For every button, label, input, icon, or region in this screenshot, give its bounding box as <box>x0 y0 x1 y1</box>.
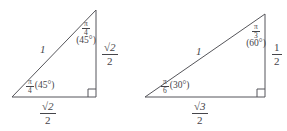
apex-angle-label-left-triangle: π 4 <box>71 19 101 36</box>
base-angle-label-right-triangle: π 6 (30°) <box>161 78 189 94</box>
base-angle-radian-fraction-left: π 4 <box>26 78 34 94</box>
base-side-label-right-triangle: √3 2 <box>192 101 208 126</box>
apex-angle-degrees-left-triangle: (45°) <box>66 36 106 46</box>
base-side-denominator-right: 2 <box>192 114 208 126</box>
base-angle-degrees-left-triangle: (45°) <box>35 81 55 91</box>
apex-angle-label-right-triangle: π 3 <box>241 22 271 39</box>
base-side-fraction-left: √2 2 <box>40 101 56 126</box>
right-angle-marker-right-triangle <box>257 89 265 97</box>
base-side-fraction-right: √3 2 <box>192 101 208 126</box>
base-side-label-left-triangle: √2 2 <box>40 101 56 126</box>
apex-angle-radian-fraction-right: π 3 <box>252 23 260 39</box>
vertical-side-denominator-right: 2 <box>272 55 282 67</box>
base-angle-radian-fraction-right: π 6 <box>161 78 169 94</box>
base-side-numerator-right: √3 <box>192 101 208 114</box>
apex-angle-degrees-right-triangle: (60°) <box>236 39 276 49</box>
base-angle-denominator-left: 4 <box>26 87 34 95</box>
right-angle-marker-left-triangle <box>88 89 96 97</box>
trigonometry-special-triangles-figure: 1 π 4 (45°) π 4 (45°) √2 2 √2 2 1 π 3 (6… <box>0 0 287 131</box>
base-side-numerator-left: √2 <box>40 101 56 114</box>
hypotenuse-label-right-triangle: 1 <box>196 46 202 57</box>
base-side-denominator-left: 2 <box>40 114 56 126</box>
vertical-side-fraction-right: 1 2 <box>272 42 282 67</box>
vertical-side-label-right-triangle: 1 2 <box>272 42 282 67</box>
apex-angle-radian-fraction-left: π 4 <box>82 20 90 36</box>
vertical-side-label-left-triangle: √2 2 <box>102 42 118 67</box>
vertical-side-denominator-left: 2 <box>102 55 118 67</box>
base-angle-degrees-right-triangle: (30°) <box>170 81 190 91</box>
vertical-side-numerator-right: 1 <box>272 42 282 55</box>
base-angle-label-left-triangle: π 4 (45°) <box>26 78 54 94</box>
hypotenuse-label-left-triangle: 1 <box>40 44 46 55</box>
base-angle-denominator-right: 6 <box>161 87 169 95</box>
vertical-side-numerator-left: √2 <box>102 42 118 55</box>
vertical-side-fraction-left: √2 2 <box>102 42 118 67</box>
